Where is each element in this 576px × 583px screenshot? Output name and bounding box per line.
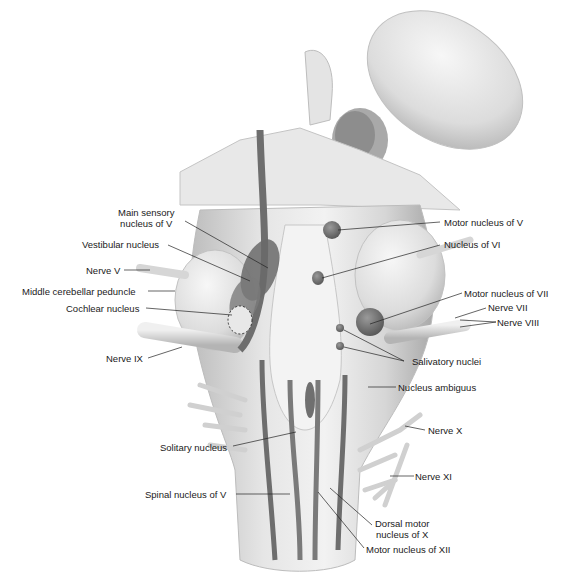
label-motor-nucleus-xii: Motor nucleus of XII [366, 544, 450, 555]
label-salivatory-nuclei: Salivatory nuclei [412, 356, 481, 367]
label-vestibular-nucleus: Vestibular nucleus [82, 239, 159, 250]
label-nerve-vii: Nerve VII [488, 302, 528, 313]
label-nucleus-vi: Nucleus of VI [444, 239, 501, 250]
label-line: Dorsal motor [375, 518, 429, 529]
label-nerve-v: Nerve V [86, 265, 120, 276]
label-motor-nucleus-v: Motor nucleus of V [444, 217, 523, 228]
label-nucleus-ambiguus: Nucleus ambiguus [398, 382, 476, 393]
label-nerve-xi: Nerve XI [415, 471, 452, 482]
label-nerve-viii: Nerve VIII [497, 317, 539, 328]
label-nerve-x: Nerve X [428, 425, 462, 436]
label-motor-nucleus-vii: Motor nucleus of VII [464, 288, 548, 299]
upper-structures [180, 0, 549, 210]
label-line: nucleus of V [118, 218, 175, 229]
brainstem-diagram: Main sensory nucleus of V Vestibular nuc… [0, 0, 576, 583]
label-dorsal-motor-nucleus-x: Dorsal motor nucleus of X [375, 518, 429, 540]
label-line: Main sensory [118, 207, 175, 218]
label-spinal-nucleus-v: Spinal nucleus of V [145, 489, 226, 500]
label-cochlear-nucleus: Cochlear nucleus [66, 303, 139, 314]
label-main-sensory-nucleus-v: Main sensory nucleus of V [118, 207, 175, 229]
label-solitary-nucleus: Solitary nucleus [160, 442, 227, 453]
label-line: nucleus of X [375, 529, 429, 540]
label-nerve-ix: Nerve IX [106, 353, 143, 364]
label-middle-cerebellar-peduncle: Middle cerebellar peduncle [22, 286, 136, 297]
